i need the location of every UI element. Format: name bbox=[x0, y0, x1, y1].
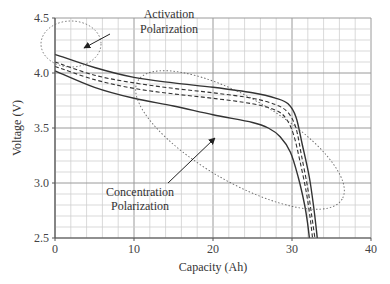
y-tick-label: 4.0 bbox=[34, 66, 49, 80]
curve-upper-solid bbox=[55, 54, 317, 238]
curve-lower-dashed bbox=[55, 66, 313, 238]
grid bbox=[55, 18, 371, 238]
voltage-capacity-chart: 0102030402.53.03.54.04.5 Capacity (Ah) V… bbox=[0, 0, 390, 284]
y-tick-label: 3.0 bbox=[34, 176, 49, 190]
x-tick-label: 20 bbox=[207, 242, 219, 256]
activation-arrow-icon bbox=[84, 34, 110, 48]
x-tick-label: 10 bbox=[128, 242, 140, 256]
discharge-curves bbox=[55, 54, 317, 238]
x-tick-label: 40 bbox=[365, 242, 377, 256]
x-tick-label: 30 bbox=[286, 242, 298, 256]
y-tick-label: 4.5 bbox=[34, 11, 49, 25]
activation-label-line2: Polarization bbox=[140, 22, 198, 36]
concentration-label-line2: Polarization bbox=[111, 199, 169, 213]
y-tick-label: 3.5 bbox=[34, 121, 49, 135]
curve-lower-solid bbox=[55, 71, 309, 238]
concentration-label-line1: Concentration bbox=[106, 185, 174, 199]
activation-label-line1: Activation bbox=[144, 7, 195, 21]
y-axis-label: Voltage (V) bbox=[10, 100, 24, 156]
x-axis-label: Capacity (Ah) bbox=[179, 260, 247, 274]
concentration-arrow-icon bbox=[168, 138, 215, 183]
x-tick-label: 0 bbox=[52, 242, 58, 256]
y-tick-label: 2.5 bbox=[34, 231, 49, 245]
